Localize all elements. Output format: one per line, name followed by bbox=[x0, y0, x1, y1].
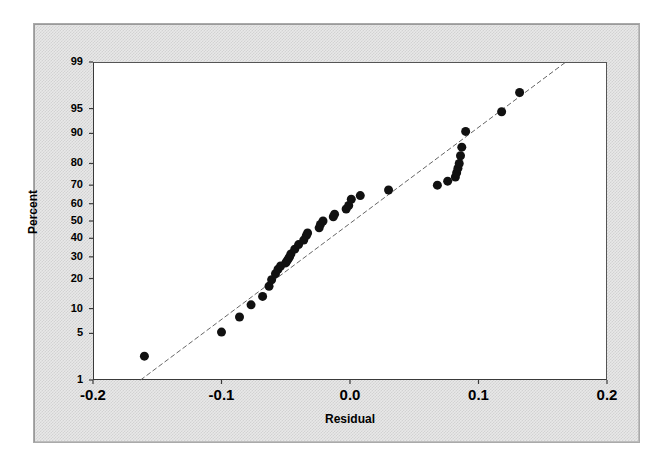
x-tick-label: 0.1 bbox=[449, 387, 509, 402]
x-tick-label: 0.2 bbox=[577, 387, 637, 402]
data-point bbox=[319, 217, 328, 226]
x-tick-label: -0.1 bbox=[192, 387, 252, 402]
data-point bbox=[461, 127, 470, 136]
y-tick-label: 70 bbox=[49, 179, 83, 190]
y-tick-label: 20 bbox=[49, 273, 83, 284]
y-tick-label: 80 bbox=[49, 157, 83, 168]
y-tick-label: 60 bbox=[49, 198, 83, 209]
data-point bbox=[140, 352, 149, 361]
data-points-group bbox=[140, 88, 524, 361]
y-axis-title: Percent bbox=[26, 162, 40, 262]
data-point bbox=[347, 195, 356, 204]
x-tick-label: -0.2 bbox=[63, 387, 123, 402]
data-point bbox=[433, 181, 442, 190]
data-point bbox=[455, 159, 464, 168]
y-tick-label: 5 bbox=[49, 327, 83, 338]
tick-marks-group bbox=[89, 62, 607, 384]
data-point bbox=[303, 229, 312, 238]
data-point bbox=[258, 292, 267, 301]
y-tick-label: 90 bbox=[49, 127, 83, 138]
data-point bbox=[330, 210, 339, 219]
y-tick-label: 99 bbox=[49, 56, 83, 67]
y-tick-label: 30 bbox=[49, 251, 83, 262]
data-point bbox=[247, 300, 256, 309]
data-point bbox=[456, 151, 465, 160]
y-tick-label: 40 bbox=[49, 232, 83, 243]
x-axis-title: Residual bbox=[285, 412, 415, 426]
y-tick-label: 50 bbox=[49, 215, 83, 226]
normal-probability-plot-figure: 151020304050607080909599 -0.2-0.10.00.10… bbox=[0, 0, 670, 465]
data-point bbox=[515, 88, 524, 97]
data-point bbox=[235, 313, 244, 322]
data-point bbox=[384, 185, 393, 194]
data-point bbox=[217, 328, 226, 337]
data-point bbox=[457, 143, 466, 152]
y-tick-label: 95 bbox=[49, 103, 83, 114]
data-point bbox=[497, 107, 506, 116]
data-point bbox=[356, 191, 365, 200]
x-tick-label: 0.0 bbox=[320, 387, 380, 402]
y-tick-label: 1 bbox=[49, 374, 83, 385]
data-point bbox=[443, 177, 452, 186]
y-tick-label: 10 bbox=[49, 303, 83, 314]
